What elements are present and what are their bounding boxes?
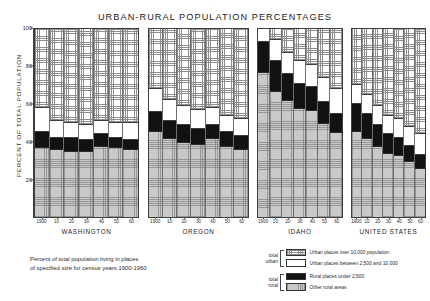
stacked-bar[interactable] xyxy=(362,29,372,217)
legend-group-urban-tag-line2: urban xyxy=(258,259,278,265)
segment-rural-other xyxy=(123,149,138,217)
stacked-bar[interactable] xyxy=(373,29,383,217)
segment-rural-place xyxy=(270,61,281,91)
segment-urban-small xyxy=(79,125,93,140)
x-axis-tick-10: 10 xyxy=(362,219,373,228)
legend: total urban Urban places over 10,000 pop… xyxy=(258,248,428,293)
legend-group-urban-tag: total urban xyxy=(258,253,278,265)
segment-rural-place xyxy=(415,155,425,168)
segment-urban-large xyxy=(163,29,176,100)
segment-rural-other xyxy=(404,161,413,217)
segment-urban-large xyxy=(352,29,361,85)
stacked-bar[interactable] xyxy=(294,29,306,217)
segment-rural-other xyxy=(79,151,93,217)
stacked-bar[interactable] xyxy=(404,29,414,217)
legend-group-urban: total urban Urban places over 10,000 pop… xyxy=(258,248,428,269)
segment-rural-place xyxy=(64,138,78,151)
segment-rural-place xyxy=(177,125,190,142)
legend-label-rural-place: Rural places under 2,500 xyxy=(310,274,365,279)
stacked-bar[interactable] xyxy=(191,29,205,217)
segment-urban-small xyxy=(415,134,425,155)
segment-urban-large xyxy=(191,29,204,110)
x-axis-tick-40: 40 xyxy=(206,219,220,228)
legend-urban-rows: Urban places over 10,000 population Urba… xyxy=(286,248,398,269)
segment-urban-large xyxy=(294,29,305,61)
segment-urban-large xyxy=(306,29,317,65)
segment-rural-place xyxy=(294,84,305,108)
stacked-bar[interactable] xyxy=(330,29,342,217)
stacked-bar[interactable] xyxy=(94,29,109,217)
segment-rural-other xyxy=(294,108,305,217)
urban-rural-population-figure: ·· URBAN-RURAL POPULATION PERCENTAGES PE… xyxy=(0,0,430,301)
segment-urban-small xyxy=(177,106,190,125)
stacked-bar[interactable] xyxy=(163,29,177,217)
panel-title: IDAHO xyxy=(257,228,343,235)
segment-rural-other xyxy=(163,138,176,217)
segment-urban-large xyxy=(383,29,392,115)
stacked-bar[interactable] xyxy=(258,29,270,217)
segment-rural-other xyxy=(50,149,64,217)
segment-urban-large xyxy=(362,29,371,95)
segment-rural-other xyxy=(270,91,281,217)
segment-urban-large xyxy=(234,29,248,119)
segment-rural-other xyxy=(177,142,190,217)
segment-urban-large xyxy=(79,29,93,125)
segment-rural-place xyxy=(79,140,93,151)
panel-idaho: 1900102030405060IDAHO xyxy=(257,28,343,218)
stacked-bar[interactable] xyxy=(64,29,79,217)
segment-urban-small xyxy=(234,119,248,136)
stacked-bar[interactable] xyxy=(206,29,220,217)
stacked-bar[interactable] xyxy=(394,29,404,217)
stacked-bar[interactable] xyxy=(79,29,94,217)
segment-urban-small xyxy=(394,119,403,138)
stacked-bar[interactable] xyxy=(415,29,425,217)
stacked-bar[interactable] xyxy=(50,29,65,217)
segment-urban-large xyxy=(373,29,382,106)
x-axis-tick-50: 50 xyxy=(318,219,330,228)
stacked-bar[interactable] xyxy=(306,29,318,217)
stacked-bar[interactable] xyxy=(220,29,234,217)
segment-rural-place xyxy=(94,134,108,145)
segment-urban-small xyxy=(35,108,49,132)
stacked-bar[interactable] xyxy=(318,29,330,217)
segment-rural-place xyxy=(123,140,138,149)
stacked-bar[interactable] xyxy=(177,29,191,217)
segment-rural-other xyxy=(330,132,342,217)
legend-swatch-urban-small-icon xyxy=(286,259,306,267)
segment-rural-place xyxy=(394,138,403,155)
panel-title: WASHINGTON xyxy=(34,228,139,235)
panel-title: UNITED STATES xyxy=(351,228,426,235)
stacked-bar[interactable] xyxy=(234,29,248,217)
stacked-bar[interactable] xyxy=(123,29,138,217)
stacked-bar[interactable] xyxy=(149,29,163,217)
stacked-bar[interactable] xyxy=(282,29,294,217)
segment-urban-large xyxy=(177,29,190,106)
legend-label-urban-small: Urban places between 2,500 and 10,000 xyxy=(310,261,398,266)
plot-area xyxy=(148,28,249,218)
page-title: URBAN-RURAL POPULATION PERCENTAGES xyxy=(0,12,430,22)
x-axis-tick-10: 10 xyxy=(162,219,176,228)
stacked-bar[interactable] xyxy=(352,29,362,217)
panel-united-states: 1900102030405060UNITED STATES xyxy=(351,28,426,218)
segment-rural-other xyxy=(282,100,293,217)
segment-urban-small xyxy=(149,89,162,112)
x-axis-tick-40: 40 xyxy=(306,219,318,228)
x-axis-tick-40: 40 xyxy=(94,219,109,228)
stacked-bar[interactable] xyxy=(109,29,124,217)
stacked-bar[interactable] xyxy=(35,29,50,217)
segment-urban-small xyxy=(404,127,413,146)
x-axis-tick-20: 20 xyxy=(282,219,294,228)
legend-brace-urban xyxy=(280,250,284,267)
segment-urban-small xyxy=(373,106,382,125)
segment-rural-other xyxy=(306,110,317,217)
legend-item-urban-large: Urban places over 10,000 population xyxy=(286,248,398,257)
segment-rural-place xyxy=(163,121,176,138)
x-axis-tick-60: 60 xyxy=(124,219,139,228)
segment-urban-large xyxy=(415,29,425,134)
segment-rural-place xyxy=(206,125,219,138)
stacked-bar[interactable] xyxy=(383,29,393,217)
x-axis-tick-1900: 1900 xyxy=(257,219,269,228)
segment-rural-place xyxy=(306,87,317,110)
segment-urban-small xyxy=(294,61,305,84)
stacked-bar[interactable] xyxy=(270,29,282,217)
